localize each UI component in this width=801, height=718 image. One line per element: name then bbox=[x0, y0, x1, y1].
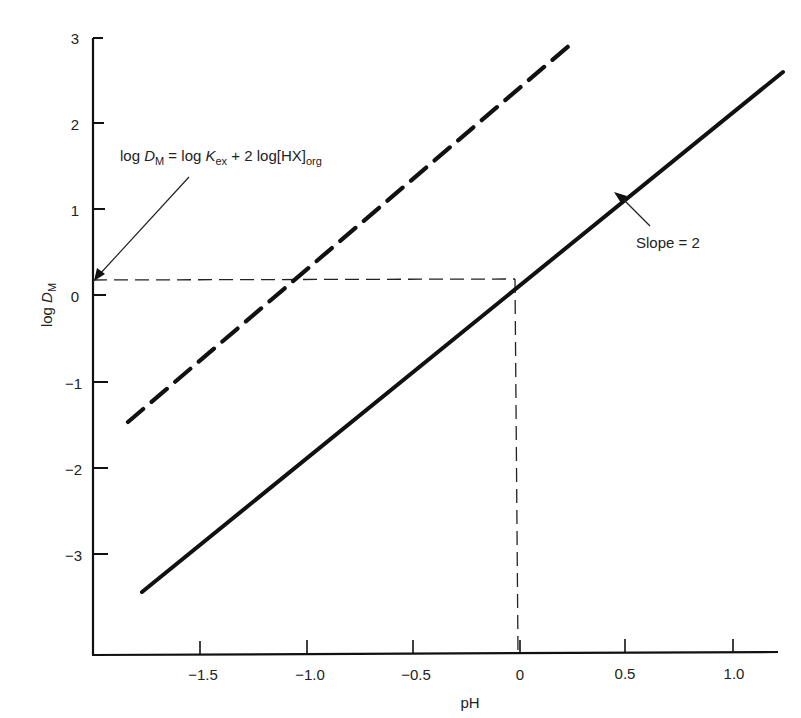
x-tick-label: 0.5 bbox=[615, 665, 636, 682]
y-tick-label: 0 bbox=[71, 288, 79, 305]
y-tick-label: −3 bbox=[65, 547, 82, 564]
x-tick-label: 1.0 bbox=[724, 665, 745, 682]
svg-text:log DM: log DM bbox=[38, 283, 58, 327]
y-tick-label: −2 bbox=[65, 461, 82, 478]
chart-canvas: 3 2 1 0 −1 −2 −3 −1.5 −1.0 −0.5 0 0.5 1.… bbox=[0, 0, 801, 718]
x-tick-label: −1.5 bbox=[188, 666, 218, 683]
y-ticks bbox=[93, 38, 108, 554]
y-axis-title: log DM bbox=[38, 283, 58, 327]
x-tick-label: −1.0 bbox=[295, 666, 325, 683]
x-tick-labels: −1.5 −1.0 −0.5 0 0.5 1.0 bbox=[188, 665, 744, 683]
dashed-series-line bbox=[128, 44, 571, 422]
y-axis-title-sub: M bbox=[46, 283, 58, 292]
intercept-guide-vertical bbox=[515, 279, 518, 652]
slope-annotation: Slope = 2 bbox=[636, 234, 700, 251]
y-axis-title-log: log bbox=[38, 303, 55, 327]
y-tick-labels: 3 2 1 0 −1 −2 −3 bbox=[65, 30, 82, 564]
x-axis bbox=[92, 652, 778, 655]
x-axis-title: pH bbox=[460, 694, 479, 711]
slope-arrow bbox=[620, 196, 650, 226]
y-tick-label: 3 bbox=[71, 30, 79, 47]
intercept-guide-horizontal bbox=[93, 279, 515, 280]
equation-arrow bbox=[99, 177, 189, 275]
chart: 3 2 1 0 −1 −2 −3 −1.5 −1.0 −0.5 0 0.5 1.… bbox=[0, 0, 801, 718]
equation-annotation: log DM = log Kex + 2 log[HX]org bbox=[120, 147, 322, 167]
y-tick-label: 1 bbox=[71, 202, 79, 219]
y-axis-title-D: D bbox=[38, 292, 55, 303]
x-tick-label: −0.5 bbox=[401, 666, 431, 683]
y-tick-label: −1 bbox=[65, 375, 82, 392]
y-tick-label: 2 bbox=[71, 116, 79, 133]
x-tick-label: 0 bbox=[516, 666, 524, 683]
